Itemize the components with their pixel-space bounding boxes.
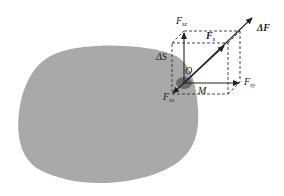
label-origin: O bbox=[185, 66, 192, 76]
label-f-sx: Fsx bbox=[163, 92, 174, 103]
diagram-canvas bbox=[0, 0, 284, 196]
label-delta-f: ΔF bbox=[257, 23, 270, 33]
label-f-sy: Fsy bbox=[244, 77, 255, 88]
label-f-sz: Fsz bbox=[176, 16, 187, 27]
label-delta-s: ΔS bbox=[156, 52, 167, 62]
label-f-s: Fs bbox=[206, 31, 215, 42]
label-point-m: M bbox=[198, 86, 206, 96]
body-region bbox=[18, 46, 198, 183]
